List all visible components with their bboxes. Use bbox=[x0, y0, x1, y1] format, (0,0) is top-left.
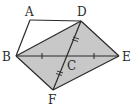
geometry-diagram: A D B E C F bbox=[0, 0, 138, 111]
point-label-c: C bbox=[67, 59, 76, 73]
point-label-d: D bbox=[77, 5, 87, 19]
diagram-svg: A D B E C F bbox=[0, 0, 138, 111]
point-label-a: A bbox=[24, 5, 34, 19]
point-label-f: F bbox=[48, 93, 56, 107]
segment-ad bbox=[30, 20, 81, 21]
point-label-e: E bbox=[122, 50, 131, 64]
point-label-b: B bbox=[2, 50, 11, 64]
